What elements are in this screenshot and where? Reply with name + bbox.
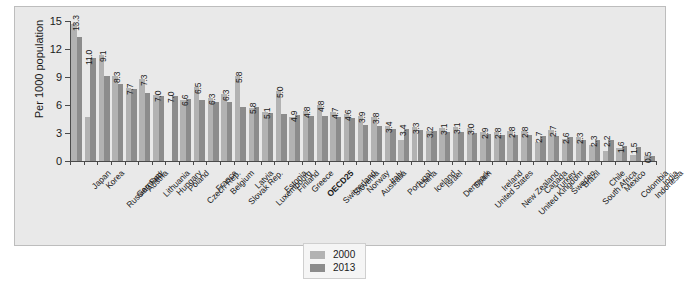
bar-group: 3.8: [370, 21, 384, 161]
bar-group: 6.6: [179, 21, 193, 161]
bar-value-label: 2.2: [602, 136, 612, 147]
x-tick-mark: [302, 161, 303, 165]
x-tick-mark: [561, 161, 562, 165]
bar-value-label: 4.8: [316, 101, 326, 112]
bar-group: 2.8: [520, 21, 534, 161]
bar-value-label: 1.6: [616, 142, 626, 153]
bar-group: 2.8: [492, 21, 506, 161]
bar-value-label: 6.6: [180, 95, 190, 106]
x-tick-mark: [261, 161, 262, 165]
bar-value-label: 3.9: [357, 112, 367, 123]
x-tick-mark: [520, 161, 521, 165]
bar-2013: [240, 107, 245, 161]
x-tick-mark: [343, 161, 344, 165]
bar-value-label: 5.1: [262, 107, 272, 118]
bar-value-label: 3.3: [411, 123, 421, 134]
bar-group: 2.3: [588, 21, 602, 161]
bar-value-label: 2.3: [589, 135, 599, 146]
y-axis-title: Per 1000 population: [33, 0, 45, 139]
bar-group: 5.1: [261, 21, 275, 161]
x-tick-mark: [588, 161, 589, 165]
bar-value-label: 4.6: [343, 110, 353, 121]
bar-2013: [336, 117, 341, 161]
bar-group: 8.3: [111, 21, 125, 161]
x-tick-mark: [533, 161, 534, 165]
x-category-label: Spain: [471, 168, 493, 190]
bar-value-label: 3.2: [425, 127, 435, 138]
bar-group: 4.8: [315, 21, 329, 161]
bar-2013: [254, 107, 259, 161]
x-tick-mark: [111, 161, 112, 165]
bar-group: 1.5: [629, 21, 643, 161]
bar-value-label: 8.3: [112, 72, 122, 83]
x-tick-mark: [411, 161, 412, 165]
bar-group: 6.3: [206, 21, 220, 161]
bar-2013: [104, 76, 109, 161]
bar-group: 2.9: [479, 21, 493, 161]
bar-2013: [118, 84, 123, 161]
bar-group: 3.9: [356, 21, 370, 161]
x-tick-mark: [220, 161, 221, 165]
bar-2013: [186, 99, 191, 161]
y-tick-label: 0: [56, 155, 62, 167]
x-tick-mark: [452, 161, 453, 165]
x-tick-mark: [424, 161, 425, 165]
bar-2013: [131, 89, 136, 161]
bar-group: 3.2: [424, 21, 438, 161]
bar-group: 6.3: [220, 21, 234, 161]
legend-label-2013: 2013: [333, 262, 355, 273]
bar-value-label: 3.1: [439, 124, 449, 135]
x-tick-mark: [329, 161, 330, 165]
bar-value-label: 7.0: [166, 91, 176, 102]
x-axis-line: [70, 161, 656, 162]
bar-group: 3.3: [411, 21, 425, 161]
bar-group: 5.8: [234, 21, 248, 161]
x-tick-mark: [479, 161, 480, 165]
x-tick-mark: [125, 161, 126, 165]
bar-group: 7.7: [125, 21, 139, 161]
bar-2013: [145, 93, 150, 161]
bar-value-label: 2.8: [493, 128, 503, 139]
bar-group: 13.3: [70, 21, 84, 161]
bar-value-label: 7.3: [139, 75, 149, 86]
legend-item-2013: 2013: [310, 261, 355, 274]
legend-item-2000: 2000: [310, 248, 355, 261]
x-tick-mark: [601, 161, 602, 165]
bar-value-label: 9.1: [98, 50, 108, 61]
bar-value-label: 0.5: [643, 152, 653, 163]
legend-label-2000: 2000: [333, 249, 355, 260]
bar-2013: [322, 116, 327, 161]
bar-group: 5.0: [274, 21, 288, 161]
bar-2013: [213, 102, 218, 161]
x-tick-mark: [152, 161, 153, 165]
bar-2013: [268, 113, 273, 161]
bar-value-label: 6.5: [193, 83, 203, 94]
bar-value-label: 4.7: [330, 108, 340, 119]
bar-2013: [458, 132, 463, 161]
bar-group: 3.4: [383, 21, 397, 161]
bar-group: 2.7: [533, 21, 547, 161]
bar-group: 7.0: [152, 21, 166, 161]
bar-2013: [445, 132, 450, 161]
x-tick-mark: [179, 161, 180, 165]
x-tick-mark: [206, 161, 207, 165]
x-tick-mark: [70, 161, 71, 165]
bar-value-label: 6.3: [221, 90, 231, 101]
bar-2013: [159, 96, 164, 161]
bar-2013: [472, 133, 477, 161]
bar-group: 2.8: [506, 21, 520, 161]
x-tick-mark: [370, 161, 371, 165]
bar-group: 2.2: [601, 21, 615, 161]
bar-2013: [527, 135, 532, 161]
plot-area: 03691215 13.311.09.18.37.77.37.07.06.66.…: [70, 21, 656, 161]
x-tick-mark: [547, 161, 548, 165]
bar-group: 4.9: [288, 21, 302, 161]
bar-group: 9.1: [97, 21, 111, 161]
bar-2013: [90, 58, 95, 161]
y-tick-label: 12: [50, 43, 62, 55]
bar-value-label: 2.7: [548, 126, 558, 137]
x-tick-mark: [656, 161, 657, 165]
bar-2013: [308, 116, 313, 161]
bar-2013: [172, 96, 177, 161]
x-tick-mark: [288, 161, 289, 165]
